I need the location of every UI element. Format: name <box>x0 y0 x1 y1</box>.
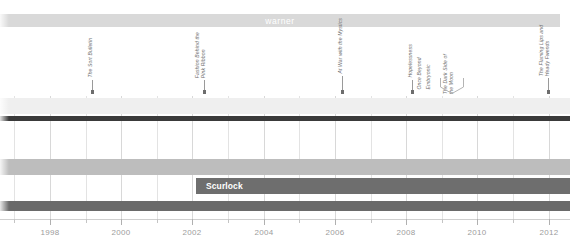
event-marker-at-war-with-the-mystic[interactable]: At War with the Mystics <box>342 44 343 92</box>
lane-label-warner: warner <box>0 16 560 26</box>
event-tick-marker <box>91 90 94 94</box>
axis-year-label-2004: 2004 <box>255 228 274 237</box>
event-marker-embryonic[interactable]: Embryonic <box>430 44 431 92</box>
lane-lane-mid-gray <box>0 159 570 175</box>
lane-lane-bottom-dark <box>0 201 570 211</box>
event-marker-the-flaming-lips-and-heady-fwends[interactable]: The Flaming Lips andHeady Fwends <box>548 36 549 92</box>
axis-year-label-1998: 1998 <box>41 228 60 237</box>
axis-year-label-2000: 2000 <box>112 228 131 237</box>
event-caption-line: Once Beyond <box>416 58 422 90</box>
lane-lane-light-upper <box>0 98 570 114</box>
axis-tick-2007 <box>371 219 372 223</box>
axis-tick-2002 <box>192 219 193 225</box>
axis-tick-2008 <box>406 219 407 225</box>
dark-side-range-bracket <box>440 78 464 94</box>
event-tick-marker <box>203 90 206 94</box>
event-caption-line: The Sort Bulletin <box>87 38 93 78</box>
axis-tick-2011 <box>513 219 514 223</box>
event-caption-hopelessness: Hopelessness <box>408 45 414 78</box>
event-caption-embryonic: Embryonic <box>426 65 432 90</box>
event-caption-once-beyond: Once Beyond <box>417 58 423 90</box>
lane-left-taper <box>0 201 9 211</box>
event-marker-fashion-behind-pink-ribbon[interactable]: Fashion Behind thePink Ribbon <box>204 40 205 92</box>
event-tick-marker <box>411 90 414 94</box>
event-caption-line: Hopelessness <box>407 45 413 78</box>
event-caption-line: At War with the Mystics <box>337 18 343 74</box>
lane-lane-scurlock: Scurlock <box>196 178 570 194</box>
axis-tick-2000 <box>121 219 122 225</box>
axis-tick-1997 <box>14 219 15 223</box>
axis-tick-2003 <box>228 219 229 223</box>
axis-year-label-2006: 2006 <box>326 228 345 237</box>
lane-warner: warner <box>0 14 560 27</box>
timeline-figure: warnerScurlockThe Sort BulletinFashion B… <box>0 0 570 249</box>
event-tick-marker <box>341 90 344 94</box>
axis-year-label-2008: 2008 <box>397 228 416 237</box>
event-marker-the-son-bulletin[interactable]: The Sort Bulletin <box>92 40 93 92</box>
event-marker-once-beyond[interactable]: Once Beyond <box>421 44 422 92</box>
lane-left-taper <box>0 159 9 175</box>
axis-tick-1998 <box>50 219 51 225</box>
event-marker-hopelessness[interactable]: Hopelessness <box>412 44 413 92</box>
axis-tick-2009 <box>442 219 443 223</box>
axis-year-label-2012: 2012 <box>540 228 559 237</box>
year-axis: 19982000200220042006200820102012 <box>0 219 570 249</box>
event-caption-line: Pink Ribbon <box>200 32 206 78</box>
lane-label-lane-scurlock: Scurlock <box>206 181 243 191</box>
event-tick-marker <box>547 90 550 94</box>
axis-year-label-2010: 2010 <box>468 228 487 237</box>
axis-year-label-2002: 2002 <box>183 228 202 237</box>
lane-lane-rule-dark <box>0 116 570 121</box>
axis-tick-2010 <box>477 219 478 225</box>
event-caption-the-flaming-lips-and-heady-fwends: The Flaming Lips andHeady Fwends <box>539 25 550 76</box>
axis-tick-2012 <box>549 219 550 225</box>
event-caption-line: Embryonic <box>425 65 431 90</box>
axis-tick-2004 <box>264 219 265 225</box>
event-caption-fashion-behind-pink-ribbon: Fashion Behind thePink Ribbon <box>195 32 206 78</box>
axis-tick-2005 <box>299 219 300 223</box>
lane-left-taper <box>0 116 9 121</box>
lane-left-taper <box>0 98 9 114</box>
event-caption-the-son-bulletin: The Sort Bulletin <box>88 38 94 78</box>
event-caption-line: Heady Fwends <box>544 25 550 76</box>
axis-tick-1999 <box>86 219 87 223</box>
axis-tick-2006 <box>335 219 336 225</box>
axis-tick-2001 <box>157 219 158 223</box>
event-caption-at-war-with-the-mystic: At War with the Mystics <box>338 18 344 74</box>
